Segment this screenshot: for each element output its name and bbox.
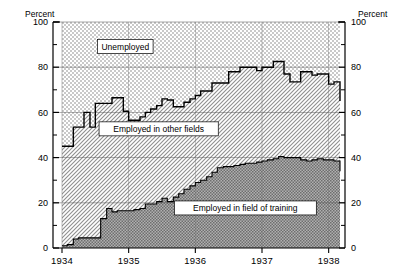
annotation-2: Employed in other fields bbox=[99, 122, 218, 136]
annotation-3: Employed in field of training bbox=[174, 201, 316, 215]
annotation-label: Employed in field of training bbox=[193, 203, 298, 213]
y-tick-label-left: 100 bbox=[33, 17, 48, 27]
y-tick-label-right: 20 bbox=[351, 198, 361, 208]
chart-container: Percent Percent 020406080100 02040608010… bbox=[0, 0, 393, 280]
x-tick-label-1937: 1937 bbox=[251, 255, 273, 266]
y-tick-label-right: 40 bbox=[351, 153, 361, 163]
y-axis-tick-labels-right: 020406080100 bbox=[351, 17, 366, 253]
y-tick-label-left: 0 bbox=[43, 243, 48, 253]
annotation-label: Employed in other fields bbox=[113, 124, 204, 134]
x-axis-tick-labels: 19341935193619371938 bbox=[51, 255, 340, 266]
y-tick-label-left: 80 bbox=[38, 62, 48, 72]
x-tick-label-1936: 1936 bbox=[184, 255, 206, 266]
percent-distribution-chart: Percent Percent 020406080100 02040608010… bbox=[0, 0, 393, 280]
y-tick-label-left: 20 bbox=[38, 198, 48, 208]
y-tick-label-right: 100 bbox=[351, 17, 366, 27]
y-axis-tick-labels-left: 020406080100 bbox=[33, 17, 48, 253]
x-tick-label-1935: 1935 bbox=[118, 255, 140, 266]
y-tick-label-right: 60 bbox=[351, 108, 361, 118]
y-tick-label-right: 0 bbox=[351, 243, 356, 253]
y-tick-label-left: 40 bbox=[38, 153, 48, 163]
x-tick-label-1934: 1934 bbox=[51, 255, 73, 266]
y-tick-label-right: 80 bbox=[351, 62, 361, 72]
x-tick-label-1938: 1938 bbox=[318, 255, 340, 266]
annotation-1: Unemployed bbox=[98, 39, 154, 53]
annotation-label: Unemployed bbox=[101, 42, 149, 52]
y-tick-label-left: 60 bbox=[38, 108, 48, 118]
